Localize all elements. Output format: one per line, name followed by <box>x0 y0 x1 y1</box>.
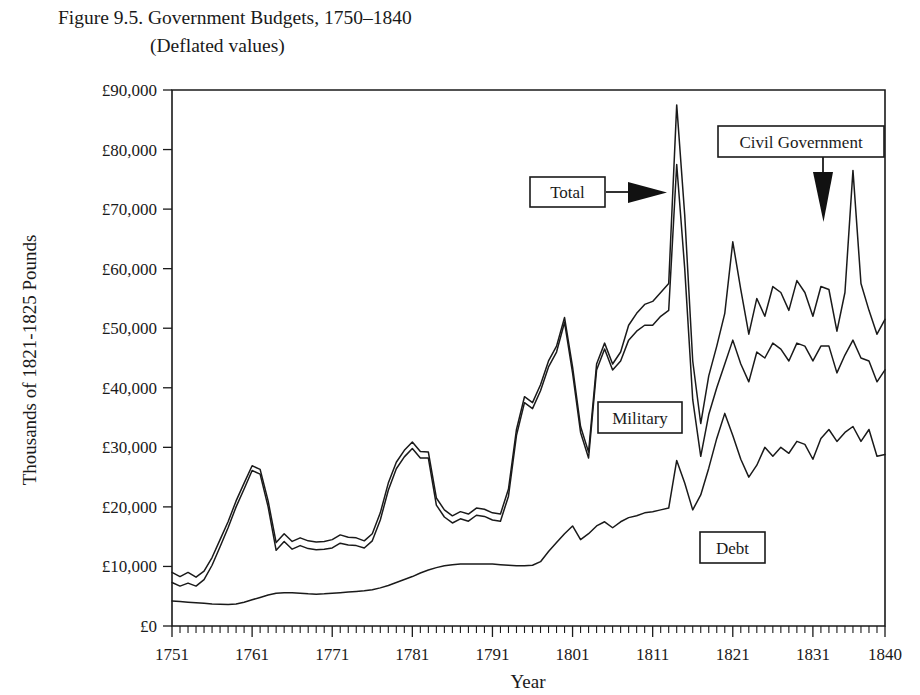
y-tick-label: £10,000 <box>102 557 157 576</box>
y-tick-label: £0 <box>140 617 157 636</box>
y-tick-label: £90,000 <box>102 81 157 100</box>
annotation-debt: Debt <box>700 532 765 563</box>
x-tick-label: 1781 <box>395 645 429 664</box>
series-line-total <box>172 105 885 577</box>
right-arrow-icon <box>628 182 667 203</box>
annotation-total-label: Total <box>550 183 585 202</box>
annotation-military-label: Military <box>612 409 668 428</box>
series-line-debt <box>172 413 885 604</box>
x-tick-label: 1761 <box>235 645 269 664</box>
x-tick-label: 1751 <box>155 645 189 664</box>
y-axis: £0£10,000£20,000£30,000£40,000£50,000£60… <box>102 81 172 636</box>
x-tick-label: 1831 <box>796 645 830 664</box>
y-tick-label: £60,000 <box>102 260 157 279</box>
annotation-civil-government-label: Civil Government <box>739 133 863 152</box>
down-arrow-icon <box>813 172 833 222</box>
x-axis: 1751176117711781179118011811182118311840 <box>155 626 902 664</box>
x-tick-label: 1840 <box>868 645 902 664</box>
figure-subtitle: (Deflated values) <box>150 35 285 57</box>
annotation-civil-government: Civil Government <box>718 126 884 222</box>
government-budgets-chart: Figure 9.5. Government Budgets, 1750–184… <box>0 0 920 695</box>
figure-container: Figure 9.5. Government Budgets, 1750–184… <box>0 0 920 695</box>
y-tick-label: £50,000 <box>102 319 157 338</box>
figure-title-line-1: Figure 9.5. Government Budgets, 1750–184… <box>58 7 412 28</box>
y-tick-label: £20,000 <box>102 498 157 517</box>
series-line-military <box>172 164 885 586</box>
x-tick-label: 1791 <box>475 645 509 664</box>
y-tick-label: £80,000 <box>102 141 157 160</box>
plot-frame <box>172 90 885 626</box>
annotation-military: Military <box>598 402 682 433</box>
y-axis-title: Thousands of 1821-1825 Pounds <box>19 235 40 486</box>
x-tick-label: 1821 <box>716 645 750 664</box>
y-tick-label: £30,000 <box>102 438 157 457</box>
x-tick-label: 1801 <box>556 645 590 664</box>
y-tick-label: £70,000 <box>102 200 157 219</box>
y-tick-label: £40,000 <box>102 379 157 398</box>
data-series-group <box>172 105 885 605</box>
annotation-debt-label: Debt <box>716 539 749 558</box>
annotation-total: Total <box>530 177 667 207</box>
x-axis-title: Year <box>510 671 546 692</box>
x-tick-label: 1811 <box>636 645 669 664</box>
x-tick-label: 1771 <box>315 645 349 664</box>
